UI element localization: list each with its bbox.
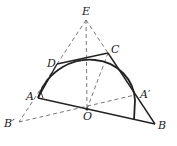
label-D: D <box>46 57 56 70</box>
geometry-diagram: E C D A O B A′ B′ <box>0 0 177 146</box>
dashed-line-E-C <box>86 20 108 53</box>
dashed-line-E-O <box>86 20 87 109</box>
label-B-prime: B′ <box>3 117 15 130</box>
label-A: A <box>25 90 34 103</box>
label-C: C <box>111 43 120 56</box>
label-A-prime: A′ <box>139 88 151 101</box>
angle-mark-A <box>41 92 43 98</box>
label-E: E <box>81 5 90 18</box>
segment-D-C <box>57 53 108 64</box>
dashed-line-Bprime-Aprime <box>19 95 135 122</box>
label-B: B <box>157 119 166 132</box>
label-O: O <box>83 110 92 123</box>
segment-A-B <box>38 98 155 124</box>
